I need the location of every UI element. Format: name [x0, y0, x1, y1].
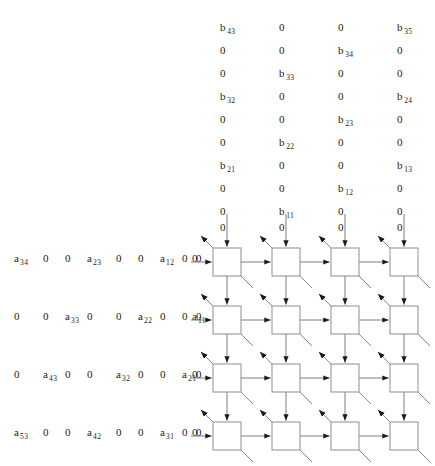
processing-element-cell	[390, 306, 418, 334]
processing-element-cell	[331, 248, 359, 276]
processing-element-cell	[331, 422, 359, 450]
processing-element-cell	[272, 306, 300, 334]
processing-element-cell	[213, 422, 241, 450]
processing-element-cell	[390, 364, 418, 392]
processing-element-cell	[331, 364, 359, 392]
processing-element-cell	[331, 306, 359, 334]
systolic-array	[0, 0, 435, 466]
processing-element-cell	[272, 364, 300, 392]
processing-element-cell	[390, 422, 418, 450]
processing-element-cell	[213, 364, 241, 392]
processing-element-cell	[272, 422, 300, 450]
processing-element-cell	[390, 248, 418, 276]
figure-canvas: b4300b3500b3400b3300b3200b2400b2300b2200…	[0, 0, 435, 466]
processing-element-cell	[213, 306, 241, 334]
processing-element-cell	[213, 248, 241, 276]
processing-element-cell	[272, 248, 300, 276]
